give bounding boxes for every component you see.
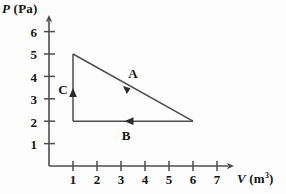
process-c-arrowhead	[69, 88, 77, 97]
x-tick-label-7: 7	[210, 172, 224, 188]
process-label-a: A	[126, 66, 140, 82]
process-a-path	[73, 54, 193, 121]
x-tick-label-6: 6	[186, 172, 200, 188]
y-axis-title: P (Pa)	[2, 1, 38, 17]
y-tick-label-2: 2	[21, 115, 37, 131]
process-label-b: B	[119, 128, 133, 144]
x-tick-label-5: 5	[162, 172, 176, 188]
y-tick-label-3: 3	[21, 92, 37, 108]
process-label-c: C	[56, 82, 70, 98]
pv-diagram-canvas	[0, 0, 286, 194]
pv-diagram-figure: P (Pa) V (m3) 1 2 3 4 5 6 1 2 3 4 5 6 7 …	[0, 0, 286, 194]
process-b-arrowhead	[125, 117, 134, 125]
x-tick-label-2: 2	[90, 172, 104, 188]
process-a-arrowhead	[123, 86, 131, 94]
x-axis-title: V (m3)	[237, 171, 274, 187]
x-tick-label-3: 3	[114, 172, 128, 188]
y-tick-label-4: 4	[21, 70, 37, 86]
y-tick-label-1: 1	[21, 137, 37, 153]
y-tick-label-6: 6	[21, 25, 37, 41]
x-tick-label-4: 4	[138, 172, 152, 188]
x-tick-label-1: 1	[66, 172, 80, 188]
y-tick-label-5: 5	[21, 47, 37, 63]
